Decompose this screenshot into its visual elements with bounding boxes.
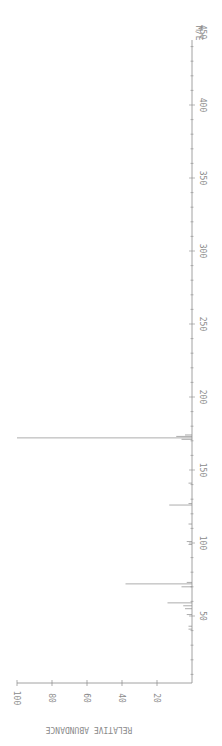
mass-spectrum-chart: 5010015020025030035040045020406080100 M/… bbox=[0, 0, 222, 746]
y-axis-label: RELATIVE ABUNDANCE bbox=[45, 725, 132, 734]
mz-tick-label: 100 bbox=[198, 536, 207, 551]
axes bbox=[17, 40, 195, 686]
mz-tick-label: 150 bbox=[198, 463, 207, 478]
axis-labels: 5010015020025030035040045020406080100 bbox=[12, 25, 207, 706]
intensity-tick-label: 80 bbox=[47, 693, 56, 703]
mz-tick-label: 300 bbox=[198, 244, 207, 259]
intensity-tick-label: 20 bbox=[152, 693, 161, 703]
intensity-tick-label: 40 bbox=[117, 693, 126, 703]
mz-tick-label: 250 bbox=[198, 317, 207, 332]
mz-tick-label: 50 bbox=[198, 611, 207, 621]
x-axis-label: M/E bbox=[194, 26, 203, 41]
mz-tick-label: 350 bbox=[198, 171, 207, 186]
mz-tick-label: 200 bbox=[198, 390, 207, 405]
mz-tick-label: 400 bbox=[198, 98, 207, 113]
intensity-tick-label: 100 bbox=[12, 691, 21, 706]
intensity-tick-label: 60 bbox=[82, 693, 91, 703]
spectrum-peaks bbox=[17, 435, 192, 629]
